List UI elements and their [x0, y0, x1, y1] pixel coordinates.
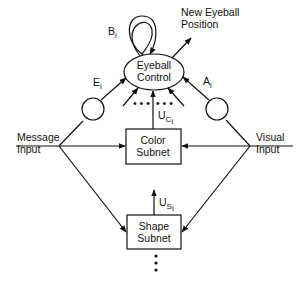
shape-subnet-label-2: Subnet — [137, 232, 170, 244]
weight-e-label: Ei — [93, 76, 102, 91]
visual-to-shape-arrow — [182, 146, 250, 232]
weight-us-label: USi — [159, 196, 174, 213]
message-to-e-line — [59, 121, 83, 146]
self-loop-b — [132, 22, 152, 56]
vertical-ellipsis — [154, 254, 157, 271]
eyeball-control-node: Eyeball Control — [124, 54, 184, 90]
weight-uc-label: UCi — [158, 109, 173, 126]
eyeball-control-label-1: Eyeball — [137, 59, 171, 71]
message-input-label-1: Message — [17, 131, 60, 143]
color-subnet-label-2: Subnet — [136, 146, 169, 158]
visual-to-a-line — [226, 120, 250, 146]
e-to-eyeball-arrow — [101, 78, 126, 100]
color-subnet-label-1: Color — [140, 134, 166, 146]
visual-input-label-1: Visual — [256, 131, 284, 143]
shape-subnet-label-1: Shape — [139, 220, 170, 232]
ellipsis-right: • • • — [156, 97, 173, 109]
visual-input-label-2: Input — [256, 143, 279, 155]
weight-a-label: Ai — [203, 75, 212, 90]
color-subnet-node: Color Subnet — [126, 129, 181, 164]
output-label-1: New Eyeball — [181, 6, 239, 18]
gate-e-circle — [82, 98, 104, 120]
output-arrow — [172, 38, 191, 58]
diagram-canvas: Eyeball Control Bi New Eyeball Position … — [0, 0, 306, 286]
shape-subnet-node: Shape Subnet — [127, 215, 181, 249]
eyeball-control-label-2: Control — [137, 71, 171, 83]
gate-a-circle — [206, 98, 228, 120]
message-to-shape-arrow — [59, 146, 126, 232]
weight-b-label: Bi — [108, 25, 117, 40]
ellipsis-left: • • • — [133, 97, 150, 109]
output-label-2: Position — [181, 18, 219, 30]
message-input-label-2: Input — [17, 143, 40, 155]
